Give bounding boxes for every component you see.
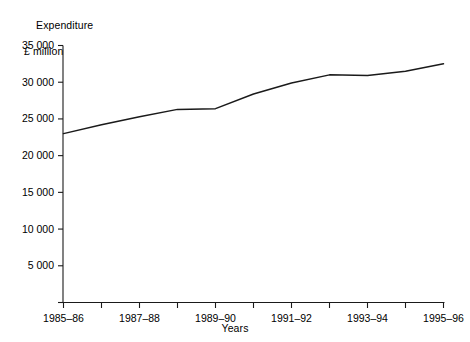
- y-axis-tick-label: 30 000: [2, 76, 54, 88]
- y-axis-tick-label: 20 000: [2, 149, 54, 161]
- y-axis-tick-label: 35 000: [2, 39, 54, 51]
- x-axis-title: Years: [0, 322, 470, 335]
- expenditure-line-chart: Expenditure £ million 5 00010 00015 0002…: [0, 0, 470, 342]
- y-axis-tick-label: 15 000: [2, 186, 54, 198]
- data-series-expenditure: [64, 64, 444, 134]
- y-axis-tick-label: 5 000: [2, 259, 54, 271]
- plot-area: [0, 0, 470, 342]
- y-axis-tick-label: 25 000: [2, 112, 54, 124]
- y-axis-tick-label: 10 000: [2, 223, 54, 235]
